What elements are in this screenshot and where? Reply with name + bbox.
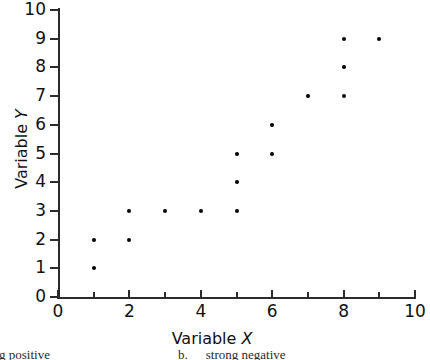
data-point [235, 152, 239, 156]
caption-right-fragment: b.strong negative [178, 348, 286, 360]
y-tick-5 [50, 153, 58, 155]
x-tick-label-2: 2 [109, 303, 149, 320]
y-tick-9 [50, 38, 58, 40]
y-tick-10 [50, 9, 58, 11]
y-axis-title-name: Variable [12, 124, 31, 189]
data-point [306, 94, 310, 98]
data-point [163, 209, 167, 213]
data-point [377, 37, 381, 41]
caption-left-fragment: ong positive [0, 348, 50, 360]
x-tick-label-8: 8 [324, 303, 364, 320]
data-point [92, 266, 96, 270]
data-point [342, 94, 346, 98]
data-point [92, 238, 96, 242]
y-tick-4 [50, 181, 58, 183]
data-point [127, 238, 131, 242]
data-point [342, 37, 346, 41]
x-tick-label-6: 6 [252, 303, 292, 320]
data-point [270, 123, 274, 127]
figure-caption-row: ong positive b.strong negative [0, 348, 424, 360]
y-tick-2 [50, 239, 58, 241]
y-tick-label-1: 1 [0, 259, 46, 276]
y-tick-8 [50, 66, 58, 68]
y-tick-7 [50, 95, 58, 97]
y-tick-label-9: 9 [0, 30, 46, 47]
data-point [235, 180, 239, 184]
caption-right-letter: b. [178, 348, 206, 360]
y-tick-label-10: 10 [0, 1, 46, 18]
caption-right-text: strong negative [206, 348, 286, 360]
y-tick-label-2: 2 [0, 231, 46, 248]
data-point [127, 209, 131, 213]
x-axis-title-symbol: X [236, 329, 252, 348]
data-point [270, 152, 274, 156]
plot-data-area [58, 10, 415, 297]
y-tick-3 [50, 210, 58, 212]
x-tick-label-4: 4 [181, 303, 221, 320]
x-tick-label-0: 0 [38, 303, 78, 320]
x-axis-title-name: Variable [172, 329, 237, 348]
y-axis-title: VariableY [13, 69, 31, 229]
data-point [235, 209, 239, 213]
x-axis-title: VariableX [0, 330, 424, 348]
y-tick-1 [50, 267, 58, 269]
y-tick-6 [50, 124, 58, 126]
y-axis-title-symbol: Y [12, 109, 31, 124]
data-point [199, 209, 203, 213]
data-point [342, 65, 346, 69]
x-tick-label-10: 10 [395, 303, 430, 320]
